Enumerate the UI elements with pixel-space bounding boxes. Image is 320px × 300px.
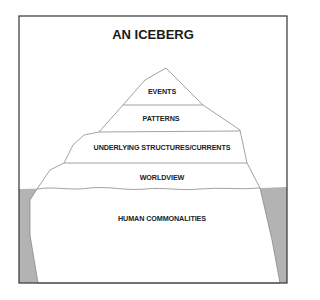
- layer-label-patterns: PATTERNS: [143, 114, 180, 123]
- layer-label-events: EVENTS: [148, 87, 176, 96]
- diagram-title: AN ICEBERG: [112, 27, 194, 42]
- layer-label-human-commonalities: HUMAN COMMONALITIES: [118, 214, 206, 223]
- layer-label-worldview: WORLDVIEW: [140, 173, 185, 182]
- layer-label-underlying-structures: UNDERLYING STRUCTURES/CURRENTS: [94, 143, 231, 152]
